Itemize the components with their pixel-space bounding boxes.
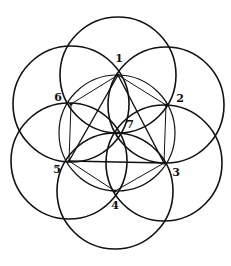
vertex-5: [67, 159, 70, 162]
vertex-3: [162, 161, 165, 164]
point-label-1: 1: [115, 52, 123, 65]
vertex-6: [69, 102, 72, 105]
vertex-7: [115, 131, 118, 134]
point-label-7: 7: [126, 118, 134, 131]
hexagon-edge-2-3: [164, 105, 166, 163]
point-label-5: 5: [53, 163, 61, 176]
vertex-4: [113, 189, 116, 192]
triangle-edge-5-1: [69, 75, 118, 161]
flower-of-life-diagram: 1 2 3 4 5 6 7: [0, 0, 231, 266]
point-label-4: 4: [111, 199, 119, 212]
points-layer: [67, 73, 167, 192]
triangle-edge-1-3: [118, 75, 164, 163]
vertex-1: [116, 73, 119, 76]
vertex-2: [164, 103, 167, 106]
point-label-2: 2: [176, 92, 184, 105]
point-label-6: 6: [54, 91, 62, 104]
point-label-3: 3: [172, 166, 180, 179]
